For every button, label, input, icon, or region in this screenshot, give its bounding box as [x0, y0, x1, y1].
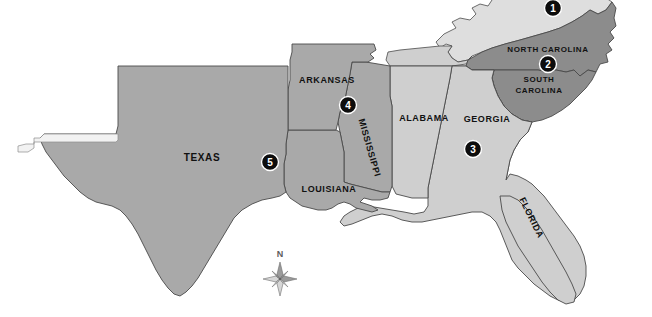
marker-5-label: 5	[267, 157, 273, 168]
state-label-georgia: GEORGIA	[464, 114, 511, 124]
marker-2[interactable]: 2	[540, 56, 557, 73]
marker-1-label: 1	[550, 3, 556, 14]
compass-north-label: N	[277, 249, 284, 259]
state-label-south-carolina-line1: SOUTH	[524, 75, 555, 84]
state-label-north-carolina: NORTH CAROLINA	[507, 45, 588, 54]
marker-4-label: 4	[345, 100, 351, 111]
state-label-south-carolina-line2: CAROLINA	[515, 86, 562, 95]
marker-3-label: 3	[470, 144, 476, 155]
map-container: TEXAS LOUISIANA ARKANSAS MISSISSIPPI ALA…	[0, 0, 652, 317]
marker-5[interactable]: 5	[262, 154, 279, 171]
state-label-louisiana: LOUISIANA	[302, 184, 357, 194]
state-label-arkansas: ARKANSAS	[299, 75, 355, 85]
marker-4[interactable]: 4	[340, 97, 357, 114]
southeast-us-map: TEXAS LOUISIANA ARKANSAS MISSISSIPPI ALA…	[0, 0, 652, 317]
state-label-alabama: ALABAMA	[399, 113, 449, 123]
marker-3[interactable]: 3	[465, 141, 482, 158]
marker-2-label: 2	[545, 59, 551, 70]
marker-1[interactable]: 1	[545, 0, 562, 17]
compass-center-dot	[279, 278, 281, 280]
state-label-texas: TEXAS	[184, 152, 220, 163]
